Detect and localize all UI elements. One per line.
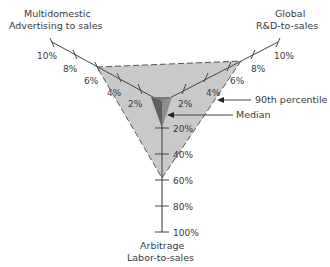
axis-subtitle-arbitrage: Labor-to-sales <box>127 252 194 263</box>
tick-label: 6% <box>84 76 99 86</box>
tick-label: 80% <box>173 202 193 212</box>
tick-label: 10% <box>37 51 57 61</box>
tick-label: 4% <box>107 88 122 98</box>
annotation-median: Median <box>236 109 271 120</box>
axis-subtitle-multidomestic: Advertising to sales <box>9 20 103 31</box>
tick-label: 20% <box>173 124 193 134</box>
annotation-90th-percentile: 90th percentile <box>255 94 328 105</box>
tick-label: 10% <box>274 51 294 61</box>
axis-title-multidomestic: Multidomestic <box>24 8 91 19</box>
tick-label: 8% <box>251 64 266 74</box>
axis-subtitle-global: R&D-to-sales <box>256 20 318 31</box>
tick-label: 8% <box>63 64 78 74</box>
tick-label: 2% <box>128 99 143 109</box>
axis-title-global: Global <box>275 8 305 19</box>
tick-label: 6% <box>230 76 245 86</box>
radar-chart: 2% 4% 6% 8% 10% 2% 4% 6% 8% 10% 20% 40% … <box>0 0 330 267</box>
tick-label: 60% <box>173 176 193 186</box>
tick-label: 40% <box>173 150 193 160</box>
axis-title-arbitrage: Arbitrage <box>140 240 185 251</box>
arrow-90th-percentile <box>217 97 251 103</box>
tick-label: 2% <box>178 99 193 109</box>
tick-label: 4% <box>206 88 221 98</box>
tick-label: 100% <box>173 228 199 238</box>
